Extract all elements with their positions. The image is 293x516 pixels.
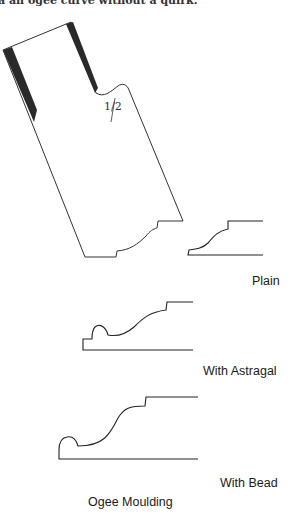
scale-label: 1/2 (104, 100, 122, 113)
bead-profile (59, 397, 198, 459)
right-shading (66, 22, 98, 93)
label-with-astragal: With Astragal (203, 364, 277, 378)
moulding-illustration (0, 0, 293, 516)
plane-iron-drawing (3, 22, 183, 257)
plain-profile (188, 221, 263, 255)
label-plain: Plain (252, 274, 280, 288)
astragal-profile (83, 302, 193, 350)
left-shading (3, 47, 37, 122)
label-with-bead: With Bead (220, 476, 278, 490)
figure-title: Ogee Moulding (88, 495, 173, 509)
